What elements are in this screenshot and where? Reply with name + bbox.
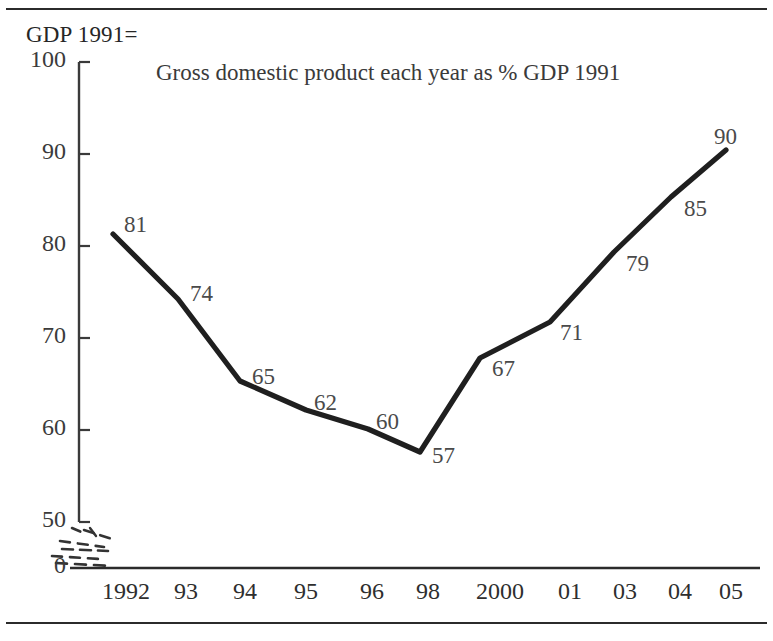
data-point-label: 65 xyxy=(252,364,275,390)
x-axis-tick-label: 05 xyxy=(719,578,743,605)
x-axis-tick-label: 94 xyxy=(233,578,257,605)
data-point-label: 79 xyxy=(626,251,649,277)
x-axis-tick-label: 1992 xyxy=(102,578,150,605)
y-axis-tick-label: 100 xyxy=(8,46,66,73)
y-axis-tick-label: 90 xyxy=(8,138,66,165)
plot-area xyxy=(0,0,773,641)
y-axis-tick-label: 80 xyxy=(8,230,66,257)
x-axis-tick-label: 03 xyxy=(613,578,637,605)
x-axis-tick-label: 04 xyxy=(668,578,692,605)
data-point-label: 71 xyxy=(560,320,583,346)
chart-figure: GDP 1991= Gross domestic product each ye… xyxy=(0,0,773,641)
y-axis-tick-marks xyxy=(79,62,90,522)
y-axis-tick-label: 60 xyxy=(8,414,66,441)
x-axis-tick-label: 93 xyxy=(174,578,198,605)
axis-lines xyxy=(70,62,760,568)
y-axis-tick-label: 0 xyxy=(8,552,66,579)
x-axis-tick-label: 01 xyxy=(558,578,582,605)
data-point-label: 85 xyxy=(684,196,707,222)
x-axis-tick-label: 96 xyxy=(360,578,384,605)
x-axis-tick-label: 98 xyxy=(416,578,440,605)
data-point-label: 90 xyxy=(714,124,737,150)
x-axis-tick-label: 2000 xyxy=(476,578,524,605)
data-point-label: 67 xyxy=(492,356,515,382)
data-point-label: 62 xyxy=(314,390,337,416)
data-point-label: 57 xyxy=(432,443,455,469)
x-axis-tick-label: 95 xyxy=(294,578,318,605)
data-point-label: 60 xyxy=(376,409,399,435)
data-point-label: 81 xyxy=(124,212,147,238)
y-axis-tick-label: 50 xyxy=(8,506,66,533)
y-axis-tick-label: 70 xyxy=(8,322,66,349)
data-point-label: 74 xyxy=(190,281,213,307)
